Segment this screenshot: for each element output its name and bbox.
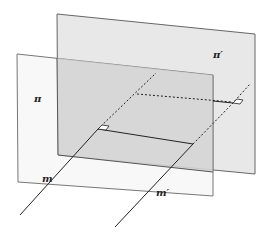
- parallel-planes-diagram: π π′ m m′: [0, 0, 269, 237]
- label-pi: π: [33, 93, 42, 104]
- plane-overlap-region: [57, 58, 213, 172]
- label-m: m: [42, 173, 53, 184]
- label-m-prime: m′: [156, 187, 170, 198]
- label-pi-prime: π′: [212, 49, 223, 60]
